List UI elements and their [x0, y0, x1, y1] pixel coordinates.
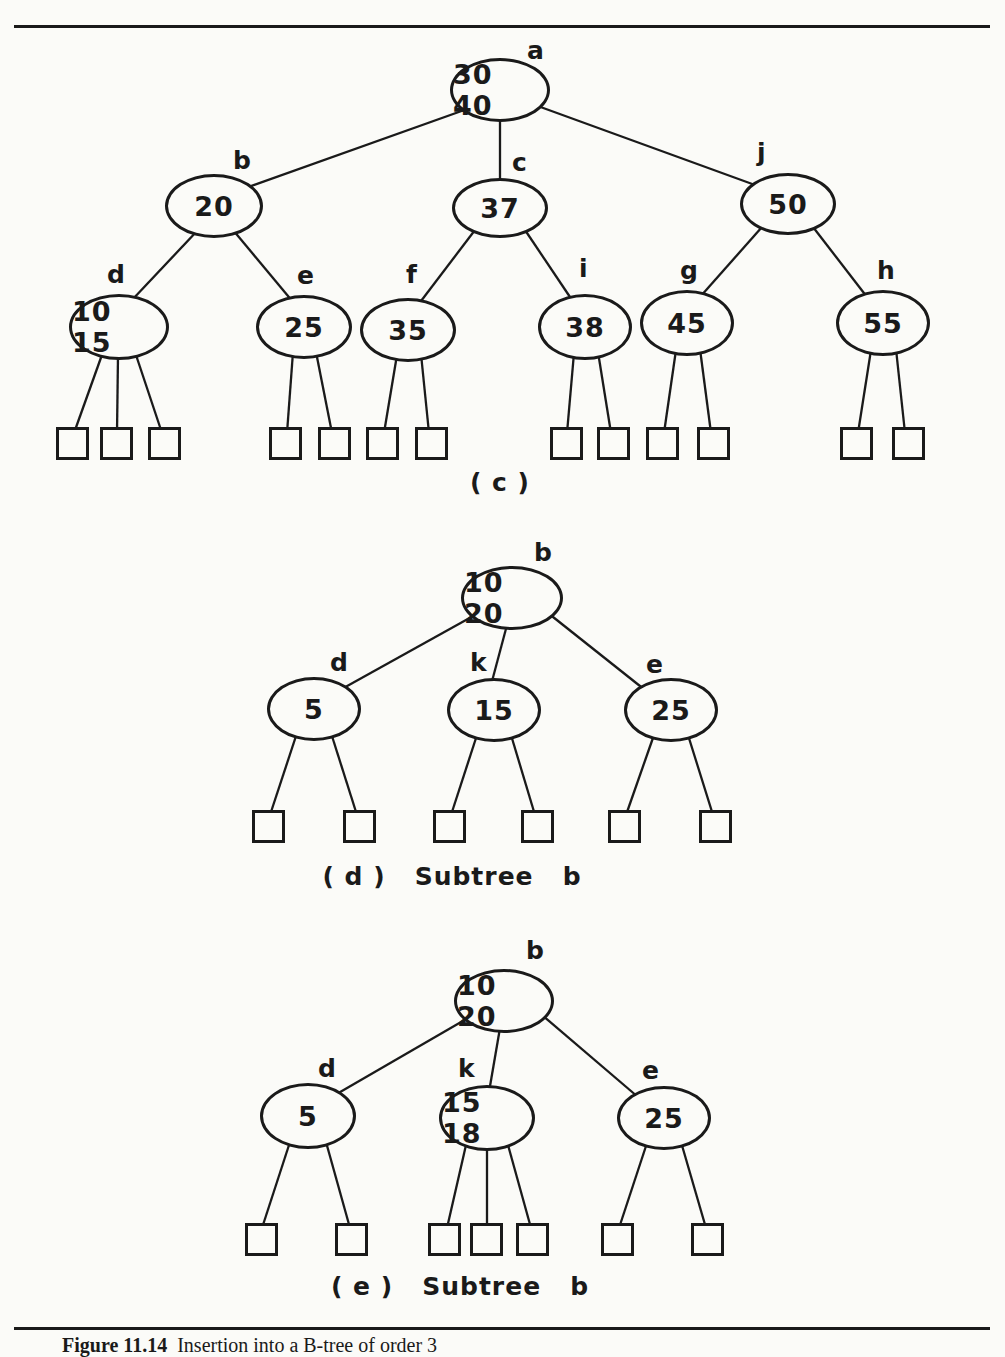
tree-d-label-e: e [646, 652, 663, 677]
edge [233, 230, 293, 302]
edge [132, 230, 198, 300]
tree-e-node-e: 25 [617, 1086, 711, 1150]
edge [511, 735, 535, 815]
leaf-square [366, 427, 399, 460]
tree-c-node-c: 37 [452, 178, 548, 238]
edge [626, 735, 654, 815]
edge [491, 625, 507, 685]
tree-e-label-e: e [642, 1058, 659, 1083]
edge [535, 105, 755, 185]
edge [858, 350, 871, 433]
edge [688, 735, 713, 815]
tree-c-label-g: g [680, 258, 698, 283]
edge [664, 350, 676, 433]
edge [681, 1142, 706, 1228]
edge [700, 349, 711, 433]
tree-c-label-j: j [757, 140, 766, 165]
leaf-square [521, 810, 554, 843]
leaf-square [343, 810, 376, 843]
tree-e-label-b: b [526, 938, 544, 963]
leaf-square [415, 427, 448, 460]
edge [598, 352, 611, 433]
leaf-square [335, 1223, 368, 1256]
leaf-square [601, 1223, 634, 1256]
caption-tree-e: ( e ) Subtree b [330, 1272, 590, 1301]
edge [421, 354, 429, 433]
tree-d-label-k: k [470, 650, 487, 675]
edge [335, 1018, 468, 1095]
leaf-square [100, 427, 133, 460]
leaf-square [892, 427, 925, 460]
leaf-square [428, 1223, 461, 1256]
edge [489, 1028, 500, 1092]
figure-caption: Figure 11.14Insertion into a B-tree of o… [62, 1334, 437, 1357]
leaf-square [597, 427, 630, 460]
leaf-square [470, 1223, 503, 1256]
caption-tree-d: ( d ) Subtree b [322, 862, 582, 891]
tree-c-node-i: 38 [538, 294, 632, 360]
leaf-square [245, 1223, 278, 1256]
edge [74, 352, 103, 433]
leaf-square [318, 427, 351, 460]
edge [240, 108, 470, 190]
tree-e-node-b: 10 20 [454, 969, 554, 1033]
edge [700, 227, 762, 297]
leaf-square [56, 427, 89, 460]
edge [567, 353, 574, 433]
tree-e-label-d: d [318, 1056, 336, 1081]
edge [896, 349, 905, 433]
tree-c-node-d: 10 15 [69, 294, 169, 360]
edge [813, 227, 867, 297]
edge [451, 735, 477, 815]
bottom-rule [14, 1327, 990, 1330]
edge [418, 230, 475, 305]
edge [340, 615, 475, 690]
leaf-square [252, 810, 285, 843]
leaf-square [691, 1223, 724, 1256]
edge [525, 230, 572, 300]
tree-c-label-d: d [107, 262, 125, 287]
leaf-square [699, 810, 732, 843]
edge [326, 1142, 350, 1228]
leaf-square [269, 427, 302, 460]
leaf-square [697, 427, 730, 460]
tree-c-node-j: 50 [740, 173, 836, 235]
leaf-square [148, 427, 181, 460]
tree-d-node-e: 25 [624, 678, 718, 742]
edge [135, 352, 162, 433]
leaf-square [550, 427, 583, 460]
caption-tree-c: ( c ) [435, 468, 565, 497]
leaf-square [646, 427, 679, 460]
tree-c-node-e: 25 [256, 295, 352, 359]
leaf-square [840, 427, 873, 460]
edge [316, 352, 332, 433]
edge [384, 355, 397, 433]
edge [619, 1143, 647, 1228]
tree-d-node-k: 15 [447, 678, 541, 742]
tree-c-label-c: c [512, 150, 527, 175]
edge [331, 733, 357, 815]
tree-c-label-e: e [297, 263, 314, 288]
tree-d-node-b: 10 20 [461, 566, 563, 630]
tree-d-node-d: 5 [267, 677, 361, 741]
figure-caption-text: Insertion into a B-tree of order 3 [177, 1334, 437, 1356]
tree-c-label-a: a [527, 38, 544, 63]
tree-c-node-a: 30 40 [450, 58, 550, 122]
edge [447, 1145, 466, 1228]
tree-c-label-f: f [406, 262, 417, 287]
tree-d-label-d: d [330, 650, 348, 675]
tree-c-label-b: b [233, 148, 251, 173]
tree-c-node-g: 45 [640, 290, 734, 356]
edge [117, 355, 118, 433]
edge [287, 352, 293, 433]
tree-c-node-f: 35 [360, 298, 456, 362]
tree-e-node-k: 15 18 [439, 1085, 535, 1151]
leaf-square [608, 810, 641, 843]
tree-c-node-h: 55 [836, 290, 930, 356]
tree-e-node-d: 5 [260, 1083, 356, 1149]
edge [508, 1145, 531, 1228]
tree-d-label-b: b [534, 540, 552, 565]
tree-c-node-b: 20 [165, 174, 263, 238]
edge [542, 1015, 638, 1097]
